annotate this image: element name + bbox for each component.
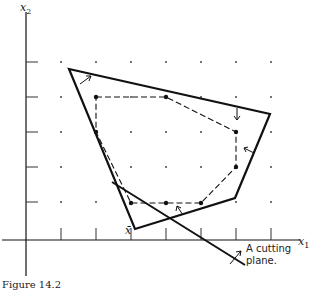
- lp-relaxation-polygon: [69, 69, 270, 229]
- integer-hull-vertices: [94, 95, 238, 205]
- figure-caption: Figure 14.2: [2, 279, 61, 290]
- x2-axis-label: x2: [20, 2, 31, 16]
- lattice-points: [60, 61, 272, 203]
- annotation-line-1: A cutting: [246, 243, 291, 255]
- x2-label-sub: 2: [26, 7, 31, 16]
- x1-axis-label: x1: [298, 236, 309, 250]
- x1-axis-ticks: [61, 228, 271, 240]
- cutting-plane-annotation: A cutting plane.: [246, 243, 291, 267]
- annotation-line-2: plane.: [246, 255, 291, 267]
- x2-axis-ticks: [26, 62, 38, 202]
- x1-label-sub: 1: [304, 241, 309, 250]
- x-bar-label: x̄: [125, 225, 131, 236]
